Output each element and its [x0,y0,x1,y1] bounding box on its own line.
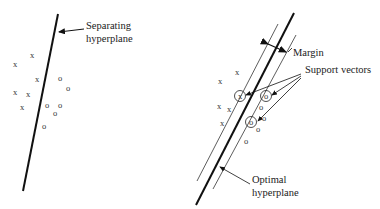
left-class-x-points: xxxxxx [13,50,40,112]
data-point-x: x [235,67,240,77]
margin-label: Margin [293,47,324,58]
separating-label-2: hyperplane [86,33,133,44]
data-point-o: o [259,102,263,112]
data-point-o: o [256,124,260,134]
optimal-hyperplane-arrow [220,167,250,184]
data-point-x: x [35,74,40,84]
margin-line-left [197,24,278,181]
svm-diagram: Separating hyperplane xxxxxx oooooo Marg… [0,0,380,209]
separating-hyperplane-arrow [59,29,84,32]
support-vector-point: x [238,91,243,101]
optimal-label-1: Optimal [252,174,286,185]
left-panel: Separating hyperplane xxxxxx oooooo [13,14,133,191]
data-point-x: x [227,104,232,114]
data-point-o: o [53,108,57,118]
data-point-x: x [20,102,25,112]
support-vector-point: o [264,91,268,101]
support-vector-point: o [249,117,253,127]
data-point-o: o [58,100,62,110]
data-point-x: x [13,87,18,97]
data-point-x: x [26,89,31,99]
data-point-x: x [217,101,222,111]
left-class-o-points: oooooo [42,73,70,131]
data-point-x: x [220,118,225,128]
optimal-label-2: hyperplane [252,187,299,198]
data-point-x: x [13,59,18,69]
right-class-x-points: xxxxx [217,67,240,128]
data-point-o: o [58,73,62,83]
data-point-o: o [66,83,70,93]
data-point-o: o [42,121,46,131]
data-point-x: x [218,76,223,86]
data-point-o: o [262,113,266,123]
data-point-x: x [30,50,35,60]
separating-label-1: Separating [86,20,132,31]
right-panel: Margin Support vectors Optimal hyperplan… [196,13,371,205]
support-vectors-label: Support vectors [305,64,371,75]
margin-line-right [213,35,296,189]
data-point-o: o [244,136,248,146]
right-class-o-points: oooo [244,102,266,146]
data-point-o: o [45,100,49,110]
separating-hyperplane-line [23,14,58,191]
